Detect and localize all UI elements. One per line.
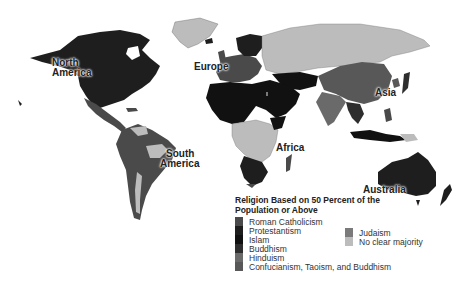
legend-item-no-clear-majority: No clear majority: [345, 237, 423, 246]
legend-title-line1: Religion Based on 50 Percent of the: [235, 195, 465, 205]
label-south-america: South America: [160, 149, 199, 169]
swatch-roman-catholicism: [235, 217, 243, 226]
label-north-america: North America: [52, 58, 91, 78]
legend-column-2: Judaism No clear majority: [345, 228, 423, 246]
label-europe: Europe: [194, 62, 228, 72]
north-america: [30, 30, 160, 108]
label-africa: Africa: [276, 143, 304, 153]
middle-east-north-africa: [206, 80, 300, 124]
swatch-buddhism: [235, 244, 243, 253]
swatch-hinduism: [235, 253, 243, 262]
swatch-islam: [235, 235, 243, 244]
label-north-america-line2: America: [52, 68, 91, 78]
swatch-protestantism: [235, 226, 243, 235]
legend-label: No clear majority: [359, 237, 423, 247]
swatch-judaism: [345, 228, 353, 237]
legend: Religion Based on 50 Percent of the Popu…: [235, 195, 465, 217]
label-south-america-line2: America: [160, 159, 199, 169]
africa: [232, 120, 278, 162]
label-asia: Asia: [375, 88, 396, 98]
greenland: [172, 18, 218, 48]
legend-label: Confucianism, Taoism, and Buddhism: [249, 262, 391, 272]
swatch-confucianism: [235, 262, 243, 271]
legend-title-line2: Population or Above: [235, 205, 465, 215]
legend-item-confucianism: Confucianism, Taoism, and Buddhism: [235, 262, 391, 271]
south-america: [116, 124, 176, 220]
swatch-no-clear-majority: [345, 237, 353, 246]
label-australia: Australia: [363, 185, 406, 195]
india: [316, 92, 346, 126]
